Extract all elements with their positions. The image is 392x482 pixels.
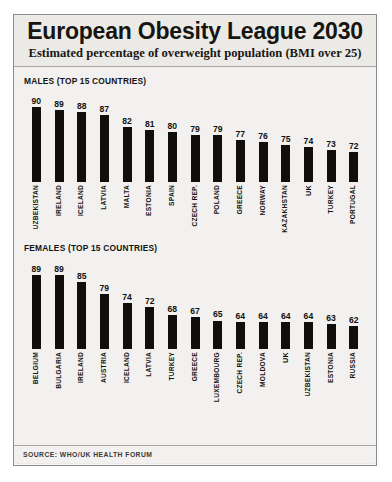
category-label-cell: POLAND [206,185,229,234]
bar-value-label: 64 [281,312,291,321]
bar [32,107,41,182]
bar-value-label: 63 [326,314,336,323]
category-label: IRELAND [78,352,85,383]
category-label-cell: CZECH REP. [184,185,207,234]
bar [349,326,358,349]
bar-value-label: 77 [236,130,246,139]
category-label-cell: ICELAND [116,352,139,401]
bar [77,112,86,182]
bar-column: 72 [342,88,365,182]
bar-value-label: 74 [122,293,132,302]
bar-column: 80 [161,88,184,182]
bar-column: 81 [138,88,161,182]
bar [77,282,86,349]
category-label: TURKEY [328,185,335,214]
category-label: ICELAND [78,185,85,216]
category-label-cell: MALTA [116,185,139,234]
category-label-cell: GREECE [229,185,252,234]
category-label-cell: LATVIA [138,352,161,401]
bar [236,140,245,183]
bar-value-label: 79 [213,125,223,134]
category-label: LUXEMBOURG [214,352,221,402]
chart-body: MALES (TOP 15 COUNTRIES) 908988878281807… [14,67,376,463]
bar [349,152,358,182]
bar [191,135,200,183]
bar-column: 87 [93,88,116,182]
category-label-cell: BULGARIA [48,352,71,401]
females-bar-chart: 898985797472686765646464646362 [22,255,368,349]
bar [100,115,109,183]
bar-column: 74 [116,255,139,349]
bar-column: 75 [274,88,297,182]
bar [259,322,268,349]
bar [281,145,290,183]
footer: SOURCE: WHO/UK HEALTH FORUM [14,445,376,463]
bar-column: 90 [25,88,48,182]
bar [123,303,132,349]
category-label-cell: UK [274,352,297,401]
category-label-cell: CZECH REP. [229,352,252,401]
bar-value-label: 87 [100,105,110,114]
category-label-cell: IRELAND [48,185,71,234]
bar-value-label: 64 [304,312,314,321]
category-label-cell: ESTONIA [138,185,161,234]
bar-value-label: 89 [54,265,64,274]
bar-value-label: 72 [145,297,155,306]
category-label: MOLDOVA [260,352,267,387]
bar-value-label: 67 [190,307,200,316]
category-label: ICELAND [124,352,131,383]
category-label-cell: LATVIA [93,185,116,234]
bar-column: 79 [206,88,229,182]
category-label: UZBEKISTAN [33,185,40,230]
category-label: AUSTRIA [101,352,108,383]
bar-value-label: 85 [77,272,87,281]
category-label-cell: NORWAY [252,185,275,234]
bar-column: 77 [229,88,252,182]
females-section-heading: FEMALES (TOP 15 COUNTRIES) [24,243,368,253]
bar-column: 64 [274,255,297,349]
category-label: NORWAY [260,185,267,215]
category-label-cell: TURKEY [161,352,184,401]
bar-column: 68 [161,255,184,349]
category-label-cell: AUSTRIA [93,352,116,401]
bar [236,322,245,349]
bar-value-label: 76 [258,132,268,141]
bar-column: 63 [320,255,343,349]
title-band: European Obesity League 2030 Estimated p… [14,15,376,67]
category-label: UK [282,352,289,363]
bar [100,294,109,349]
bar [304,322,313,349]
bar [191,317,200,349]
category-label: LATVIA [101,185,108,210]
source-note: SOURCE: WHO/UK HEALTH FORUM [23,451,367,458]
bar [145,307,154,349]
bar-column: 88 [70,88,93,182]
males-category-labels: UZBEKISTANIRELANDICELANDLATVIAMALTAESTON… [22,182,368,234]
bar-value-label: 89 [54,100,64,109]
bar [213,135,222,183]
bar-column: 89 [25,255,48,349]
males-section-heading: MALES (TOP 15 COUNTRIES) [24,76,368,86]
category-label: PORTUGAL [350,185,357,224]
category-label: LATVIA [146,352,153,377]
bar-value-label: 80 [168,122,178,131]
bar-column: 64 [252,255,275,349]
bar-value-label: 64 [258,312,268,321]
category-label: RUSSIA [350,352,357,378]
bar-value-label: 74 [304,137,314,146]
category-label-cell: BELGIUM [25,352,48,401]
category-label: ESTONIA [328,352,335,383]
bar-value-label: 90 [32,97,42,106]
bar-value-label: 75 [281,135,291,144]
category-label: BELGIUM [33,352,40,384]
category-label: UZBEKISTAN [305,352,312,397]
bar-column: 76 [252,88,275,182]
bar-column: 65 [206,255,229,349]
category-label: GREECE [192,352,199,381]
bar-value-label: 88 [77,102,87,111]
bar-column: 82 [116,88,139,182]
bar-column: 73 [320,88,343,182]
bar [55,275,64,349]
infographic-panel: European Obesity League 2030 Estimated p… [13,14,377,466]
page-subtitle: Estimated percentage of overweight popul… [22,47,368,60]
